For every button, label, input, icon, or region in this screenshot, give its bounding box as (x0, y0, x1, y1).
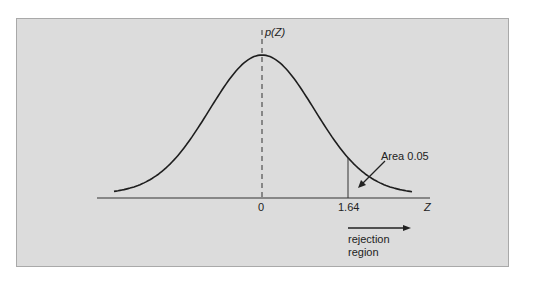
x-axis-label: Z (424, 201, 431, 213)
y-axis-label: p(Z) (265, 26, 285, 38)
rejection-arrowhead-icon (403, 225, 411, 231)
rejection-label-line1: rejection (348, 233, 390, 245)
rejection-label-line2: region (348, 246, 379, 258)
tick-label-zero: 0 (258, 201, 264, 213)
normal-curve-chart (0, 0, 535, 281)
density-curve (114, 55, 412, 192)
area-annotation: Area 0.05 (381, 150, 429, 162)
tick-label-critical: 1.64 (338, 201, 359, 213)
